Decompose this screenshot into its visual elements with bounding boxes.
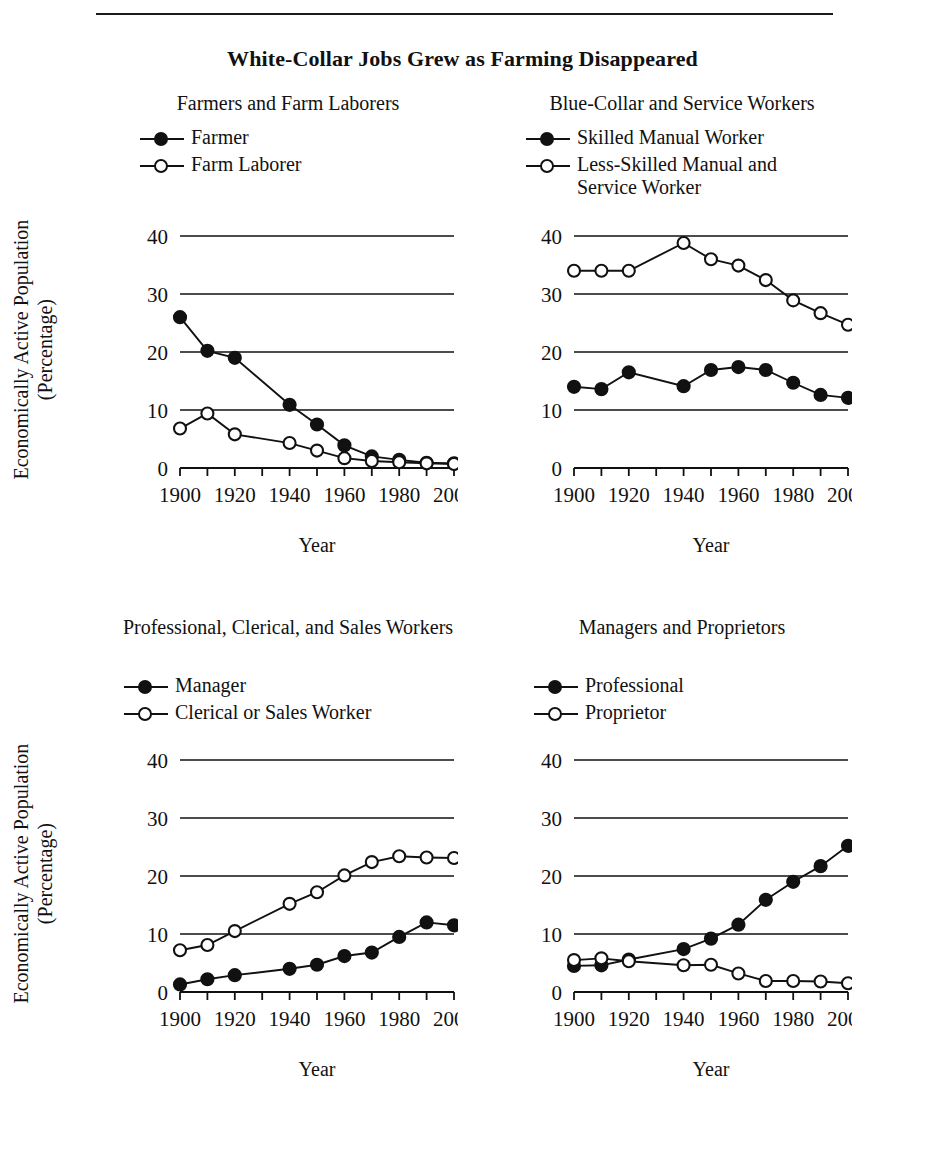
y-tick-label: 0	[552, 981, 563, 1005]
running-head	[0, 0, 925, 3]
y-tick-label: 40	[541, 228, 562, 249]
data-point-open	[366, 856, 378, 868]
x-tick-label: 1960	[323, 483, 365, 507]
y-tick-label: 0	[552, 457, 563, 481]
data-point-filled	[448, 919, 458, 931]
y-tick-label: 40	[541, 752, 562, 773]
x-axis-label-2: Year	[227, 1058, 407, 1081]
x-tick-label: 1940	[663, 483, 705, 507]
legend: Skilled Manual Worker Less-Skilled Manua…	[526, 126, 777, 201]
x-tick-label: 1920	[608, 1007, 650, 1031]
y-tick-label: 20	[541, 865, 562, 889]
data-point-filled	[842, 840, 852, 852]
data-point-open	[393, 850, 405, 862]
data-point-open	[678, 959, 690, 971]
legend-key-open-circle-icon	[124, 702, 168, 726]
data-point-filled	[311, 418, 323, 430]
series-line	[180, 922, 454, 984]
data-point-filled	[283, 963, 295, 975]
data-point-filled	[732, 919, 744, 931]
legend-label: Less-Skilled Manual and Service Worker	[577, 153, 777, 199]
data-point-filled	[201, 345, 213, 357]
x-tick-label: 2000	[433, 1007, 458, 1031]
data-point-open	[393, 456, 405, 468]
data-point-open	[284, 898, 296, 910]
data-point-filled	[420, 916, 432, 928]
x-tick-label: 1940	[269, 1007, 311, 1031]
y-tick-label: 10	[147, 923, 168, 947]
data-point-open	[760, 975, 772, 987]
chart-svg: 010203040190019201940196019802000	[512, 228, 852, 538]
data-point-open	[311, 445, 323, 457]
x-tick-label: 1980	[772, 483, 814, 507]
y-tick-label: 30	[541, 283, 562, 307]
figure-title: White-Collar Jobs Grew as Farming Disapp…	[0, 46, 925, 72]
series-line	[180, 856, 454, 950]
data-point-filled	[677, 380, 689, 392]
panel-title: Managers and Proprietors	[512, 616, 852, 639]
legend-label: Farmer	[191, 126, 249, 149]
x-tick-label: 2000	[827, 1007, 852, 1031]
x-tick-label: 1980	[378, 1007, 420, 1031]
x-tick-label: 1900	[553, 483, 595, 507]
data-point-open	[201, 939, 213, 951]
data-point-filled	[705, 364, 717, 376]
data-point-open	[311, 886, 323, 898]
x-tick-label: 1900	[553, 1007, 595, 1031]
x-tick-label: 1900	[159, 483, 201, 507]
plot-area-1: 010203040190019201940196019802000	[512, 228, 852, 538]
data-point-filled	[787, 876, 799, 888]
y-axis-label-line1: Economically Active Population	[10, 220, 32, 480]
x-tick-label: 1940	[269, 483, 311, 507]
data-point-filled	[311, 959, 323, 971]
data-point-open	[732, 967, 744, 979]
data-point-filled	[201, 973, 213, 985]
data-point-filled	[366, 946, 378, 958]
plot-area-3: 010203040190019201940196019802000	[512, 752, 852, 1062]
y-tick-label: 10	[147, 399, 168, 423]
x-tick-label: 1960	[323, 1007, 365, 1031]
data-point-filled	[338, 439, 350, 451]
data-point-filled	[623, 366, 635, 378]
legend-key-open-circle-icon	[526, 154, 570, 178]
data-point-open	[842, 319, 852, 331]
data-point-filled	[283, 399, 295, 411]
legend-item: Farmer	[140, 126, 302, 151]
legend-label: Farm Laborer	[191, 153, 302, 176]
x-tick-label: 1920	[214, 483, 256, 507]
y-tick-label: 40	[147, 228, 168, 249]
data-point-open	[421, 457, 433, 469]
legend-item: Professional	[534, 674, 684, 699]
data-point-open	[174, 423, 186, 435]
data-point-open	[732, 260, 744, 272]
legend-item: Skilled Manual Worker	[526, 126, 777, 151]
legend-item: Farm Laborer	[140, 153, 302, 178]
data-point-open	[787, 294, 799, 306]
x-tick-label: 2000	[827, 483, 852, 507]
data-point-filled	[787, 377, 799, 389]
x-tick-label: 1940	[663, 1007, 705, 1031]
y-axis-label-line2: (Percentage)	[34, 185, 58, 515]
legend-key-filled-circle-icon	[124, 675, 168, 699]
x-tick-label: 1960	[717, 483, 759, 507]
data-point-open	[595, 952, 607, 964]
data-point-open	[366, 455, 378, 467]
y-tick-label: 10	[541, 399, 562, 423]
x-tick-label: 1920	[214, 1007, 256, 1031]
legend-label: Proprietor	[585, 701, 666, 724]
x-axis-label-3: Year	[621, 1058, 801, 1081]
data-point-filled	[677, 943, 689, 955]
x-tick-label: 1960	[717, 1007, 759, 1031]
data-point-open	[815, 307, 827, 319]
legend-key-open-circle-icon	[534, 702, 578, 726]
x-axis-label-1: Year	[621, 534, 801, 557]
data-point-filled	[705, 932, 717, 944]
data-point-filled	[568, 381, 580, 393]
x-tick-label: 1980	[772, 1007, 814, 1031]
data-point-filled	[393, 931, 405, 943]
series-line	[574, 846, 848, 966]
data-point-filled	[842, 392, 852, 404]
plot-area-0: 010203040190019201940196019802000	[118, 228, 458, 538]
legend-label: Clerical or Sales Worker	[175, 701, 371, 724]
data-point-open	[760, 274, 772, 286]
